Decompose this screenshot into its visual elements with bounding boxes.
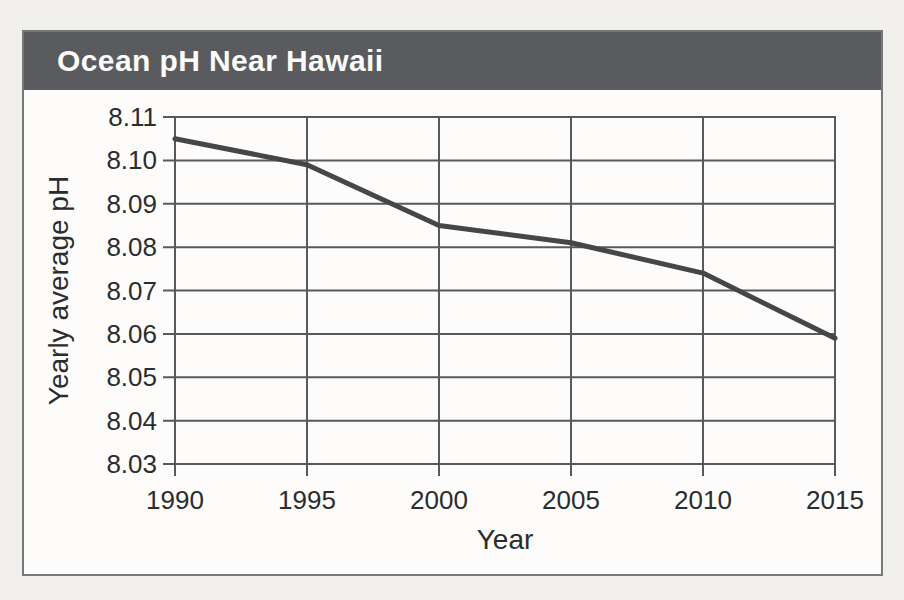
chart-figure: Ocean pH Near Hawaii 8.038.048.058.068.0…: [22, 30, 883, 576]
page-background: { "figure": { "title": "Ocean pH Near Ha…: [0, 0, 904, 600]
x-tick-label: 2005: [542, 485, 600, 515]
x-tick-label: 1990: [146, 485, 204, 515]
ph-trend-line: [175, 139, 835, 339]
y-tick-label: 8.11: [108, 102, 157, 132]
y-tick-label: 8.04: [106, 406, 157, 436]
y-tick-label: 8.09: [106, 189, 157, 219]
chart-title: Ocean pH Near Hawaii: [57, 44, 383, 78]
x-tick-label: 2000: [410, 485, 468, 515]
y-tick-label: 8.10: [106, 145, 157, 175]
chart-title-bar: Ocean pH Near Hawaii: [24, 32, 881, 90]
x-tick-label: 2015: [806, 485, 864, 515]
x-tick-label: 1995: [278, 485, 336, 515]
chart-area: 8.038.048.058.068.078.088.098.108.111990…: [24, 90, 881, 574]
y-tick-label: 8.08: [106, 232, 157, 262]
y-tick-label: 8.07: [106, 276, 157, 306]
y-tick-label: 8.05: [106, 362, 157, 392]
x-tick-label: 2010: [674, 485, 732, 515]
y-tick-label: 8.03: [106, 449, 157, 479]
x-axis-title: Year: [477, 524, 534, 555]
y-tick-label: 8.06: [106, 319, 157, 349]
line-chart-svg: 8.038.048.058.068.078.088.098.108.111990…: [24, 90, 881, 574]
y-axis-title: Yearly average pH: [43, 176, 74, 405]
